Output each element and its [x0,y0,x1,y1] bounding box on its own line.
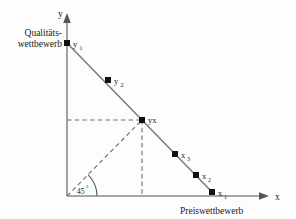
data-point-y1 [64,40,70,46]
data-point-x2 [193,172,199,178]
angle-arc [88,175,97,196]
x-axis-arrowhead [259,192,269,200]
figure-canvas: y 1 y 2 yx x 3 x 2 x 1 y x Qualitäts- we… [0,0,296,219]
data-point-x3 [172,151,178,157]
y-axis-name-line2: wettbewerb [18,39,63,49]
data-point-y2 [105,77,111,83]
point-label-x3-base: x [181,150,186,160]
data-point-x1 [209,189,215,195]
y-axis-arrowhead [63,13,71,23]
y-axis-name-line1: Qualitäts- [25,28,62,38]
point-label-yx-base: yx [148,115,157,125]
point-label-x2-subscript: 2 [208,177,211,183]
data-point-labels: y 1 y 2 yx x 3 x 2 x 1 [73,39,227,200]
economics-tradeoff-diagram: y 1 y 2 yx x 3 x 2 x 1 y x Qualitäts- we… [0,0,296,219]
x-axis-name: Preiswettbewerb [180,206,244,216]
point-label-x1-subscript: 1 [224,194,227,200]
point-label-x3-subscript: 3 [187,156,190,162]
data-point-yx [139,117,145,123]
point-label-y1-subscript: 1 [80,45,83,51]
y-axis-label: y [58,9,63,19]
angle-label-value: 45 [77,187,85,196]
axes-group [63,13,269,200]
point-label-x2-base: x [202,171,207,181]
point-label-y2-subscript: 2 [121,82,124,88]
x-axis-label: x [275,192,280,202]
angle-label-degree-symbol: ° [86,185,89,191]
point-label-y1-base: y [73,39,78,49]
point-label-y2-base: y [114,76,119,86]
forty-five-degree-line [67,120,142,196]
